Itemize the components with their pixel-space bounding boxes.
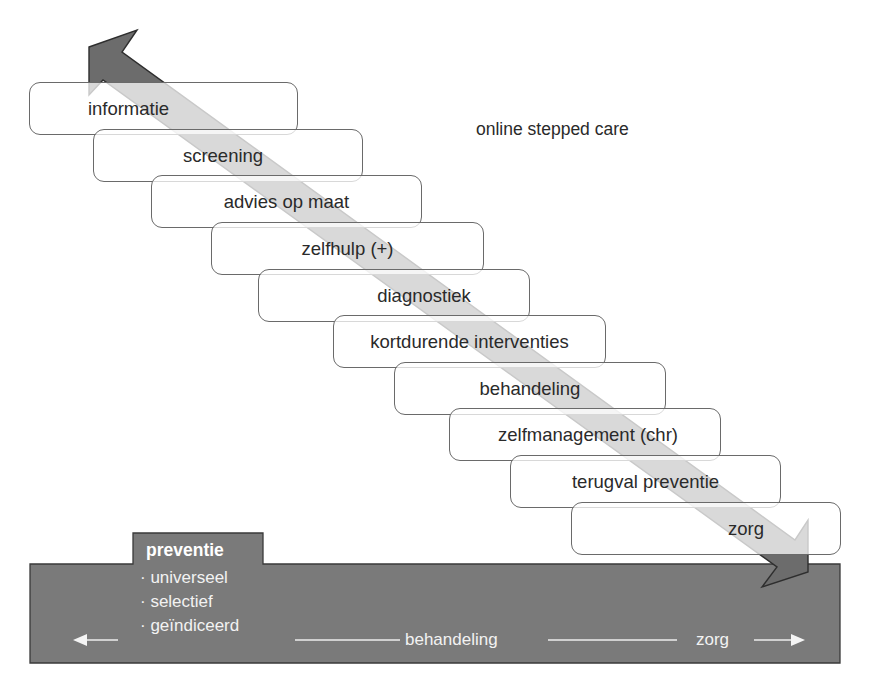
stepped-care-diagram: informatie screening advies op maat zelf… <box>0 0 871 687</box>
left-arrow-icon <box>73 634 118 646</box>
axis-arrows <box>0 0 871 687</box>
axis-label-zorg: zorg <box>696 630 729 650</box>
axis-label-behandeling: behandeling <box>405 630 498 650</box>
right-arrow-icon <box>754 634 805 646</box>
